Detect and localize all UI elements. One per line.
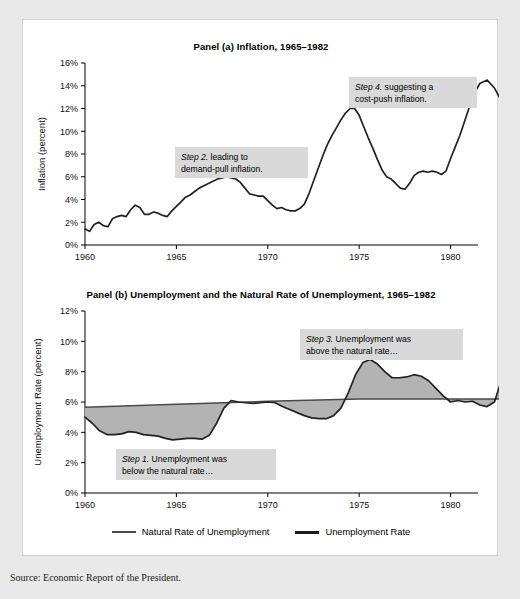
svg-text:12%: 12%	[60, 104, 78, 114]
legend-label-unemployment-rate: Unemployment Rate	[325, 527, 410, 537]
svg-text:6%: 6%	[65, 172, 78, 182]
svg-text:12%: 12%	[60, 306, 78, 316]
svg-text:8%: 8%	[65, 149, 78, 159]
svg-text:below the natural rate…: below the natural rate…	[122, 466, 213, 476]
panel-b-title: Panel (b) Unemployment and the Natural R…	[23, 289, 499, 300]
panel-b-plot: 0%2%4%6%8%10%12%19601965197019751980Year…	[23, 301, 499, 523]
svg-text:Step 4. suggesting a: Step 4. suggesting a	[355, 82, 434, 92]
svg-text:1980: 1980	[441, 500, 461, 510]
legend-item-unemployment-rate: Unemployment Rate	[295, 527, 410, 537]
chart-legend: Natural Rate of Unemployment Unemploymen…	[23, 527, 499, 537]
svg-text:1980: 1980	[441, 252, 461, 262]
svg-text:0%: 0%	[65, 488, 78, 498]
svg-text:2%: 2%	[65, 458, 78, 468]
legend-swatch-natural-rate	[112, 531, 136, 533]
svg-text:demand-pull inflation.: demand-pull inflation.	[181, 164, 263, 174]
svg-text:4%: 4%	[65, 195, 78, 205]
svg-text:Step 1. Unemployment was: Step 1. Unemployment was	[122, 454, 227, 464]
panel-a-svg: 0%2%4%6%8%10%12%14%16%196019651970197519…	[23, 53, 499, 275]
panel-a-plot: 0%2%4%6%8%10%12%14%16%196019651970197519…	[23, 53, 499, 275]
svg-text:1970: 1970	[258, 500, 278, 510]
svg-text:6%: 6%	[65, 397, 78, 407]
legend-item-natural-rate: Natural Rate of Unemployment	[112, 527, 270, 537]
svg-text:8%: 8%	[65, 367, 78, 377]
svg-text:1965: 1965	[166, 500, 186, 510]
svg-text:0%: 0%	[65, 240, 78, 250]
figure-page: Panel (a) Inflation, 1965–1982 0%2%4%6%8…	[0, 0, 520, 599]
svg-text:10%: 10%	[60, 337, 78, 347]
panel-b-svg: 0%2%4%6%8%10%12%19601965197019751980Year…	[23, 301, 499, 523]
svg-text:2%: 2%	[65, 218, 78, 228]
svg-text:1975: 1975	[349, 500, 369, 510]
svg-text:1975: 1975	[349, 252, 369, 262]
svg-text:1965: 1965	[166, 252, 186, 262]
svg-text:above the natural rate…: above the natural rate…	[306, 346, 398, 356]
svg-text:cost-push inflation.: cost-push inflation.	[355, 94, 427, 104]
svg-text:Step 3. Unemployment was: Step 3. Unemployment was	[306, 334, 411, 344]
svg-text:14%: 14%	[60, 81, 78, 91]
legend-label-natural-rate: Natural Rate of Unemployment	[142, 527, 270, 537]
svg-text:Unemployment Rate (percent): Unemployment Rate (percent)	[32, 338, 43, 465]
svg-text:1960: 1960	[75, 252, 95, 262]
svg-text:4%: 4%	[65, 428, 78, 438]
svg-text:16%: 16%	[60, 58, 78, 68]
panel-a-title: Panel (a) Inflation, 1965–1982	[23, 41, 499, 52]
svg-text:10%: 10%	[60, 127, 78, 137]
svg-text:Step 2. leading to: Step 2. leading to	[181, 152, 248, 162]
legend-swatch-unemployment-rate	[295, 531, 319, 534]
svg-text:1970: 1970	[258, 252, 278, 262]
svg-text:1960: 1960	[75, 500, 95, 510]
figure-card: Panel (a) Inflation, 1965–1982 0%2%4%6%8…	[22, 19, 498, 556]
source-note: Source: Economic Report of the President…	[10, 572, 181, 583]
svg-text:Inflation (percent): Inflation (percent)	[36, 117, 47, 191]
